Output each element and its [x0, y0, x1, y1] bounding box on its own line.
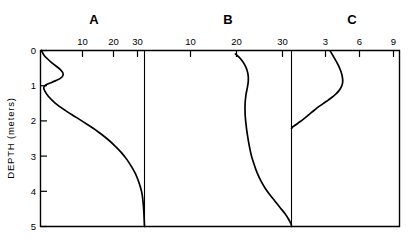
depth-tick-label: 3 — [31, 151, 36, 162]
depth-tick-label: 4 — [31, 186, 36, 197]
panel-label-a: A — [89, 12, 99, 27]
tick-label: 6 — [357, 36, 362, 47]
y-axis-title: DEPTH (meters) — [5, 97, 16, 178]
tick-label: 20 — [231, 36, 242, 47]
depth-tick-label: 0 — [31, 45, 36, 56]
tick-label: 3 — [323, 36, 328, 47]
chart-background — [0, 0, 413, 244]
tick-label: 9 — [391, 36, 396, 47]
panel-label-b: B — [223, 12, 232, 27]
panel-label-c: C — [347, 12, 357, 27]
tick-label: 30 — [277, 36, 288, 47]
depth-tick-label: 5 — [31, 221, 36, 232]
tick-label: 20 — [108, 36, 119, 47]
depth-tick-label: 1 — [31, 80, 36, 91]
tick-label: 10 — [77, 36, 88, 47]
tick-label: 10 — [185, 36, 196, 47]
depth-tick-label: 2 — [31, 115, 36, 126]
tick-label: 30 — [132, 36, 143, 47]
depth-profile-chart: A B C 10 20 30 10 20 30 3 6 9 012345 DEP… — [0, 0, 413, 244]
